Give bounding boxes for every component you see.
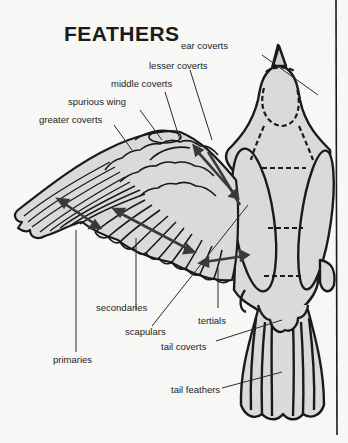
label-secondaries: secondaries — [96, 302, 147, 313]
label-ear-coverts: ear coverts — [181, 40, 228, 51]
page-border-line — [336, 0, 337, 435]
label-tertials: tertials — [198, 315, 226, 326]
label-lesser-coverts: lesser coverts — [149, 60, 208, 71]
label-middle-coverts: middle coverts — [111, 78, 172, 89]
label-greater-coverts: greater coverts — [39, 114, 102, 125]
label-tail-feathers: tail feathers — [171, 384, 220, 395]
label-tail-coverts: tail coverts — [161, 341, 206, 352]
bird-body — [224, 45, 340, 419]
label-primaries: primaries — [53, 354, 92, 365]
label-scapulars: scapulars — [125, 326, 166, 337]
label-spurious-wing: spurious wing — [68, 96, 126, 107]
page-title: FEATHERS — [64, 22, 180, 46]
